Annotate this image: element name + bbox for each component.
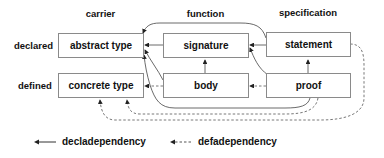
legend-decl-dependency: decladependency: [34, 136, 146, 147]
legend-def-dependency: defadependency: [170, 136, 277, 147]
node-proof: proof: [266, 73, 351, 98]
edge-proof-concrete-type: [127, 98, 318, 114]
legend-def-label: defadependency: [198, 136, 277, 147]
legend-decl-label: decladependency: [62, 136, 146, 147]
dashed-arrow-icon: [170, 139, 192, 145]
node-statement: statement: [266, 32, 351, 57]
solid-arrow-icon: [34, 139, 56, 145]
node-signature: signature: [163, 33, 249, 58]
node-concrete-type: concrete type: [58, 73, 144, 98]
node-body: body: [163, 73, 249, 98]
node-abstract-type: abstract type: [58, 33, 144, 58]
